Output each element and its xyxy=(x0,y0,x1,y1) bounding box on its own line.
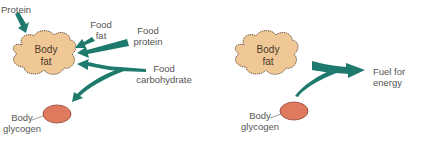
fuel-for-energy-label: Fuel for energy xyxy=(373,66,436,88)
food-fat-label: Food fat xyxy=(88,19,114,41)
body-glycogen-label: Body glycogen xyxy=(0,112,44,134)
body-glycogen-ellipse xyxy=(43,105,71,123)
food-protein-label: Food protein xyxy=(130,25,166,47)
diagram-graphics xyxy=(0,0,436,141)
food-carbohydrate-label: Food carbohydrate xyxy=(133,63,195,85)
output-arrows xyxy=(295,61,365,97)
body-glycogen-label-right: Body glycogen xyxy=(238,110,282,132)
protein-label: Protein xyxy=(1,4,31,15)
body-fat-label-right: Body fat xyxy=(248,44,288,68)
body-fat-label: Body fat xyxy=(26,44,66,68)
body-glycogen-ellipse-right xyxy=(280,102,308,120)
